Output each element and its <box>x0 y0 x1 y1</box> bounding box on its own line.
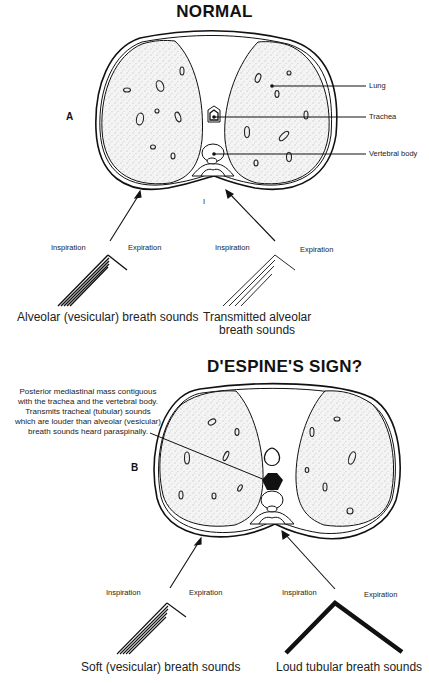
graph-b-tubular <box>286 603 402 653</box>
graph-b-right-expiration: Expiration <box>364 590 397 599</box>
graph-b-left-expiration: Expiration <box>189 588 222 597</box>
figure-b-cross-section <box>0 0 429 683</box>
mediastinal-mass <box>262 473 283 490</box>
graph-b-right-inspiration: Inspiration <box>282 588 317 597</box>
graph-b-left-inspiration: Inspiration <box>106 588 141 597</box>
graph-b-left-caption: Soft (vesicular) breath sounds <box>81 660 240 674</box>
graph-b-right-caption: Loud tubular breath sounds <box>276 660 422 674</box>
trachea-b <box>264 448 279 466</box>
graph-b-vesicular <box>117 603 186 654</box>
